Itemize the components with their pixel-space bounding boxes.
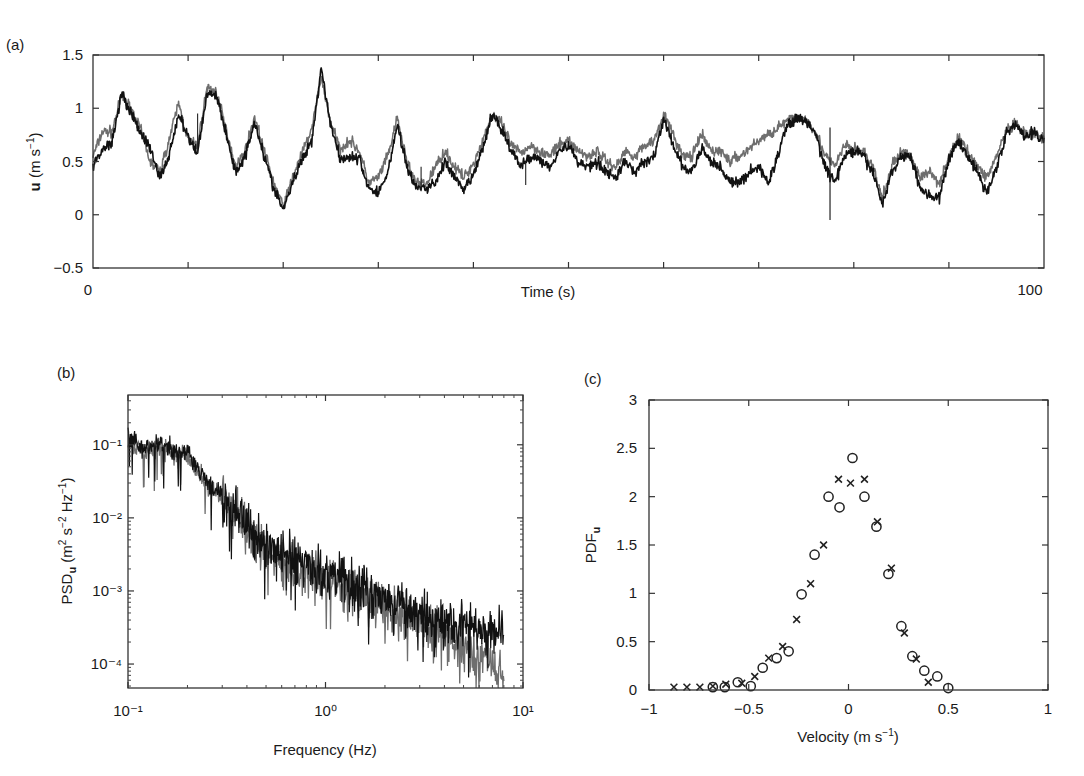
x-tick-label: 10⁻¹ (113, 702, 143, 719)
x-tick-label: 0 (844, 700, 852, 717)
x-tick-label: −0.5 (734, 700, 764, 717)
panel-a-xtick-0: 0 (84, 281, 92, 298)
panel-c-xlabel: Velocity (m s−1) (797, 727, 898, 745)
y-tick-label: 10⁻² (92, 509, 122, 526)
y-tick-label: 0 (629, 681, 637, 698)
panel-b-label: (b) (57, 364, 75, 381)
y-tick-label: 0 (75, 206, 83, 223)
psd-line-grey (128, 439, 504, 688)
panel-b-series (128, 428, 504, 688)
y-tick-label: 0.5 (62, 153, 83, 170)
circle-marker (784, 647, 793, 656)
figure: (a) 1.510.50−0.5 0 100 Time (s) u (m s−1… (0, 0, 1084, 776)
panel-c-ylabel: PDFu (582, 527, 602, 564)
circle-marker (797, 590, 806, 599)
cross-marker (835, 476, 842, 483)
panel-a-series (93, 68, 1044, 220)
circle-marker (848, 453, 857, 462)
panel-b-ylabel: PSDu (m2 s−2 Hz−1) (57, 478, 78, 605)
circle-marker (920, 666, 929, 675)
panel-a-xtick-100: 100 (1017, 281, 1042, 298)
panel-a-ylabel: u (m s−1) (25, 133, 43, 192)
y-tick-label: 2.5 (616, 439, 637, 456)
panel-a: (a) 1.510.50−0.5 0 100 Time (s) u (m s−1… (6, 36, 1044, 300)
x-tick-label: 10¹ (512, 702, 534, 719)
panel-c: (c) −1−0.500.5132.521.510.50 Velocity (m… (582, 370, 1052, 745)
cross-marker (807, 580, 814, 587)
y-tick-label: 1 (629, 584, 637, 601)
panel-a-xlabel: Time (s) (521, 283, 575, 300)
cross-marker (793, 616, 800, 623)
circle-marker (810, 550, 819, 559)
y-tick-label: 0.5 (616, 633, 637, 650)
cross-marker (765, 655, 772, 662)
panel-c-label: (c) (584, 370, 602, 387)
x-tick-label: 10⁰ (314, 702, 337, 719)
x-tick-label: 0.5 (938, 700, 959, 717)
cross-marker (861, 476, 868, 483)
x-tick-label: −1 (640, 700, 657, 717)
y-tick-label: 10⁻¹ (92, 436, 122, 453)
cross-marker (709, 683, 716, 690)
x-tick-label: 1 (1044, 700, 1052, 717)
y-tick-label: 1 (75, 99, 83, 116)
circle-marker (758, 663, 767, 672)
panel-a-axes-box (93, 55, 1044, 268)
panel-a-label: (a) (6, 36, 24, 53)
y-tick-label: 10⁻³ (92, 582, 122, 599)
circle-marker (772, 654, 781, 663)
cross-marker (820, 542, 827, 549)
circle-marker (860, 492, 869, 501)
panel-c-axes-box (649, 400, 1048, 690)
cross-marker (925, 679, 932, 686)
y-tick-label: 10⁻⁴ (91, 655, 122, 672)
panel-b: (b) 10⁻¹10⁰10¹10⁻¹10⁻²10⁻³10⁻⁴ Frequency… (57, 364, 534, 758)
panel-b-xlabel: Frequency (Hz) (273, 741, 376, 758)
y-tick-label: 3 (629, 391, 637, 408)
circle-marker (933, 672, 942, 681)
y-tick-label: 1.5 (62, 46, 83, 63)
y-tick-label: −0.5 (53, 259, 83, 276)
cross-marker (751, 673, 758, 680)
cross-marker (779, 643, 786, 650)
circle-marker (835, 503, 844, 512)
circle-marker (824, 492, 833, 501)
cross-marker (847, 480, 854, 487)
y-tick-label: 2 (629, 488, 637, 505)
y-tick-label: 1.5 (616, 536, 637, 553)
panel-c-series (671, 453, 953, 692)
panel-c-ticks: −1−0.500.5132.521.510.50 (616, 391, 1052, 717)
